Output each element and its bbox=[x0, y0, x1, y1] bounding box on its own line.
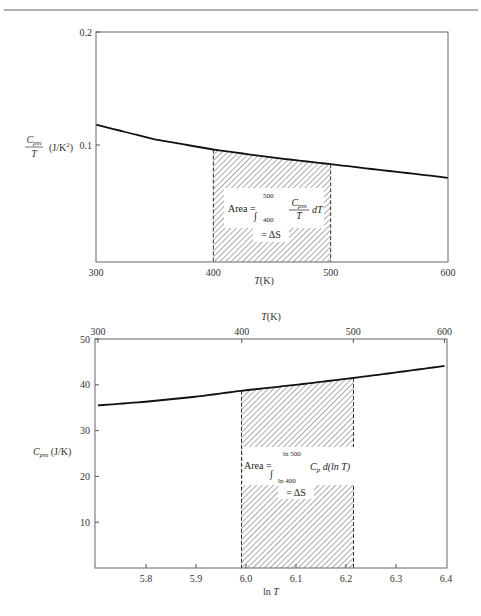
svg-text:6.4: 6.4 bbox=[440, 573, 453, 584]
svg-text:ln 400: ln 400 bbox=[278, 477, 296, 485]
svg-text:600: 600 bbox=[437, 326, 452, 337]
svg-text:500: 500 bbox=[346, 326, 361, 337]
svg-text:20: 20 bbox=[80, 471, 90, 482]
svg-text:0.1: 0.1 bbox=[80, 140, 93, 151]
svg-text:6.2: 6.2 bbox=[340, 573, 353, 584]
top-x-axis-label: T(K) bbox=[261, 311, 280, 323]
svg-text:10: 10 bbox=[80, 517, 90, 528]
svg-text:300: 300 bbox=[90, 326, 105, 337]
svg-text:Cpm: Cpm bbox=[26, 134, 41, 147]
svg-text:6.1: 6.1 bbox=[290, 573, 303, 584]
svg-text:5.9: 5.9 bbox=[190, 573, 203, 584]
svg-text:300: 300 bbox=[89, 267, 104, 278]
y-axis-ticks: 1020304050 bbox=[80, 334, 99, 528]
y-axis-ticks: 0.10.2 bbox=[80, 27, 101, 151]
svg-text:Area =: Area = bbox=[244, 460, 272, 471]
x-axis-label: T(K) bbox=[254, 275, 273, 287]
chart-cpm-vs-lnt: Area = ∫ln 500ln 400Cp d(ln T)= ΔS 5.85.… bbox=[33, 311, 452, 597]
y-axis-label: Cpm (J/K) bbox=[33, 446, 71, 459]
svg-text:40: 40 bbox=[80, 379, 90, 390]
svg-text:400: 400 bbox=[206, 267, 221, 278]
x-axis-label: ln T bbox=[263, 586, 280, 597]
svg-text:500: 500 bbox=[263, 192, 274, 200]
chart-cpm-over-t: Area = ∫500400CpmTdT= ΔS 300400500600 0.… bbox=[25, 27, 456, 288]
svg-text:600: 600 bbox=[441, 267, 456, 278]
svg-text:Area =: Area = bbox=[228, 203, 256, 214]
x-axis-ticks: 5.85.96.06.16.26.36.4 bbox=[140, 564, 453, 584]
figure: Area = ∫500400CpmTdT= ΔS 300400500600 0.… bbox=[0, 0, 481, 616]
svg-text:400: 400 bbox=[263, 216, 274, 224]
svg-text:ln 500: ln 500 bbox=[283, 450, 301, 458]
svg-text:= ΔS: = ΔS bbox=[261, 229, 281, 240]
svg-text:400: 400 bbox=[234, 326, 249, 337]
svg-text:6.0: 6.0 bbox=[240, 573, 253, 584]
svg-text:dT: dT bbox=[312, 204, 324, 215]
svg-text:5.8: 5.8 bbox=[140, 573, 153, 584]
svg-text:0.2: 0.2 bbox=[80, 27, 93, 38]
y-axis-label: Cpm T (J/K2) bbox=[25, 134, 73, 159]
svg-text:(J/K2): (J/K2) bbox=[49, 141, 73, 154]
svg-text:6.3: 6.3 bbox=[390, 573, 403, 584]
svg-text:T: T bbox=[31, 148, 38, 159]
svg-text:30: 30 bbox=[80, 425, 90, 436]
svg-text:500: 500 bbox=[323, 267, 338, 278]
top-x-axis-ticks: 300400500600 bbox=[90, 326, 452, 343]
svg-text:50: 50 bbox=[80, 334, 90, 345]
svg-text:= ΔS: = ΔS bbox=[286, 487, 306, 498]
